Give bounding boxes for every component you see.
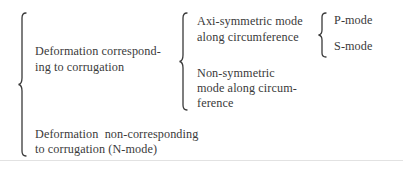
- non-symmetric-label-line1: Non-symmetric: [197, 66, 275, 81]
- outer-brace-icon: [18, 12, 28, 157]
- non-symmetric-label-line2: mode along circum-: [197, 81, 297, 96]
- bottom-divider: [0, 160, 403, 161]
- non-corresponding-label-line1: Deformation non-corresponding: [35, 127, 198, 142]
- axi-symmetric-brace-icon: [318, 12, 328, 58]
- axi-symmetric-label-line1: Axi-symmetric mode: [197, 14, 303, 29]
- corresponding-brace-icon: [179, 12, 189, 112]
- axi-symmetric-label-line2: along circumference: [197, 30, 299, 45]
- corresponding-deformation-label-line1: Deformation correspond-: [35, 44, 161, 59]
- non-corresponding-label-line2: to corrugation (N-mode): [35, 142, 157, 157]
- p-mode-label: P-mode: [334, 13, 373, 28]
- non-symmetric-label-line3: ference: [197, 96, 234, 111]
- s-mode-label: S-mode: [334, 39, 373, 54]
- corresponding-deformation-label-line2: ing to corrugation: [35, 60, 124, 75]
